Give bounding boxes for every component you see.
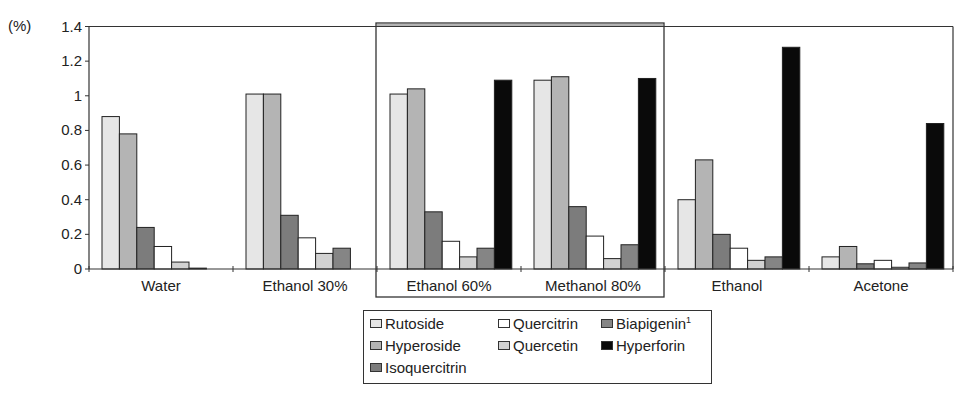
bar-hyperoside bbox=[695, 160, 712, 269]
y-axis-label: (%) bbox=[8, 17, 31, 34]
x-tick-label: Methanol 80% bbox=[545, 277, 641, 294]
bar-quercetin bbox=[316, 253, 333, 269]
bar-rutoside bbox=[678, 200, 695, 269]
bar-biapigenin bbox=[909, 263, 926, 269]
y-tick-label: 0.2 bbox=[61, 225, 82, 242]
legend-label: Hyperforin bbox=[616, 337, 685, 354]
x-tick-label: Acetone bbox=[853, 277, 908, 294]
bar-hyperoside bbox=[407, 89, 424, 269]
x-tick-label: Ethanol bbox=[712, 277, 763, 294]
bar-hyperforin bbox=[926, 124, 943, 270]
bar-quercetin bbox=[460, 257, 477, 269]
quercitrin-swatch-icon bbox=[498, 319, 510, 328]
bar-rutoside bbox=[534, 80, 551, 269]
bar-quercitrin bbox=[298, 238, 315, 269]
bar-isoquercitrin bbox=[425, 212, 442, 269]
bar-biapigenin bbox=[765, 257, 782, 269]
bar-biapigenin bbox=[333, 248, 350, 269]
bar-biapigenin bbox=[477, 248, 494, 269]
bar-quercetin bbox=[172, 262, 189, 269]
x-axis: WaterEthanol 30%Ethanol 60%Methanol 80%E… bbox=[89, 266, 953, 294]
legend-item-rutoside: Rutoside bbox=[370, 315, 444, 332]
bar-hyperforin bbox=[638, 78, 655, 269]
legend-item-hyperforin: Hyperforin bbox=[601, 337, 685, 354]
bar-hyperoside bbox=[839, 246, 856, 269]
bars bbox=[102, 47, 944, 269]
legend-label: Quercitrin bbox=[513, 315, 578, 332]
legend-label: Biapigenin1 bbox=[616, 315, 691, 332]
x-tick-label: Ethanol 30% bbox=[262, 277, 347, 294]
legend-item-quercetin: Quercetin bbox=[498, 337, 578, 354]
legend-item-quercitrin: Quercitrin bbox=[498, 315, 578, 332]
bar-isoquercitrin bbox=[569, 207, 586, 269]
bar-hyperoside bbox=[263, 94, 280, 269]
legend-item-hyperoside: Hyperoside bbox=[370, 337, 461, 354]
bar-hyperforin bbox=[494, 80, 511, 269]
legend-label: Rutoside bbox=[385, 315, 444, 332]
y-tick-label: 1.2 bbox=[61, 52, 82, 69]
bar-quercitrin bbox=[154, 246, 171, 269]
bar-quercitrin bbox=[874, 260, 891, 269]
bar-quercitrin bbox=[586, 236, 603, 269]
y-tick-label: 1 bbox=[74, 87, 82, 104]
bar-biapigenin bbox=[621, 245, 638, 269]
bar-isoquercitrin bbox=[713, 234, 730, 269]
legend-label: Hyperoside bbox=[385, 337, 461, 354]
hyperforin-swatch-icon bbox=[601, 341, 613, 350]
bar-rutoside bbox=[102, 117, 119, 269]
biapigenin-swatch-icon bbox=[601, 319, 613, 328]
bar-isoquercitrin bbox=[281, 215, 298, 269]
bar-hyperoside bbox=[551, 77, 568, 269]
isoquercitrin-swatch-icon bbox=[370, 363, 382, 372]
rutoside-swatch-icon bbox=[370, 319, 382, 328]
y-tick-label: 0.8 bbox=[61, 121, 82, 138]
legend: Rutoside Hyperoside Isoquercitrin Querci… bbox=[363, 310, 712, 384]
y-tick-label: 0.6 bbox=[61, 156, 82, 173]
bar-isoquercitrin bbox=[857, 264, 874, 269]
plot-frame bbox=[89, 27, 953, 270]
x-tick-label: Ethanol 60% bbox=[406, 277, 491, 294]
bar-quercitrin bbox=[730, 248, 747, 269]
legend-label: Quercetin bbox=[513, 337, 578, 354]
bar-rutoside bbox=[246, 94, 263, 269]
y-tick-label: 0.4 bbox=[61, 191, 82, 208]
hyperoside-swatch-icon bbox=[370, 341, 382, 350]
bar-isoquercitrin bbox=[137, 227, 154, 269]
x-tick-label: Water bbox=[141, 277, 180, 294]
bar-quercetin bbox=[748, 260, 765, 269]
legend-item-biapigenin: Biapigenin1 bbox=[601, 315, 691, 332]
bar-rutoside bbox=[822, 257, 839, 269]
bar-rutoside bbox=[390, 94, 407, 269]
bar-hyperoside bbox=[119, 134, 136, 269]
legend-item-isoquercitrin: Isoquercitrin bbox=[370, 359, 467, 376]
y-axis: 00.20.40.60.811.21.4 bbox=[61, 18, 89, 278]
bar-hyperforin bbox=[782, 47, 799, 269]
quercetin-swatch-icon bbox=[498, 341, 510, 350]
bar-quercetin bbox=[604, 259, 621, 269]
bar-quercitrin bbox=[442, 241, 459, 269]
y-tick-label: 1.4 bbox=[61, 18, 82, 35]
legend-label: Isoquercitrin bbox=[385, 359, 467, 376]
y-tick-label: 0 bbox=[74, 260, 82, 277]
